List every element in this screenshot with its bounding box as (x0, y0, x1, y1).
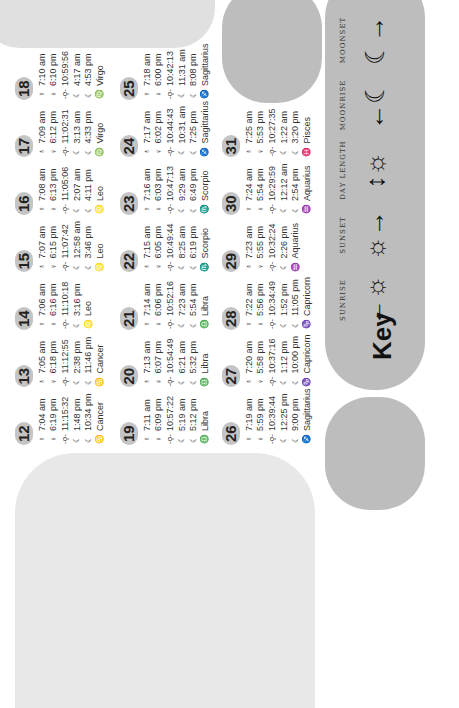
sunrise-row: ♁7:23 am (243, 213, 255, 273)
moon2-value: 7:25 pm (188, 111, 198, 144)
sign-value: Leo (95, 243, 105, 258)
moon2-row: ☾10:00 pm (289, 328, 301, 388)
day-length-icon: -ǫ- (60, 318, 69, 330)
day-number: 29 (222, 250, 240, 273)
legend-label: SUNRISE (339, 265, 347, 335)
moon2-row: ☾9:00 pm (289, 385, 301, 445)
sign-value: Capricorn (302, 334, 312, 373)
moon-icon: ☾ (72, 203, 81, 215)
sunset-row: ♀5:59 pm (255, 385, 267, 445)
moon-icon: ☾ (177, 88, 186, 100)
sunrise-row: ♁7:19 am (243, 385, 255, 445)
moon1-value: 4:17 am (72, 53, 82, 86)
moon2-row: ☾4:53 pm (82, 40, 94, 100)
daylength-value: 10:59:56 (60, 51, 70, 86)
sunset-icon: ♀ (154, 203, 163, 215)
sunrise-row: ♁7:20 am (243, 328, 255, 388)
moon2-value: 11:05 pm (290, 279, 300, 316)
sunset-icon: ♀ (256, 318, 265, 330)
moon1-value: 7:23 am (177, 283, 187, 316)
sunrise-row: ♁7:13 am (141, 328, 153, 388)
daylength-row: -ǫ-10:54:49 (164, 328, 176, 388)
zodiac-icon: ♐ (200, 88, 209, 100)
moon1-row: ☾1:22 am (278, 98, 290, 158)
sign-value: Leo (95, 186, 105, 201)
sunset-value: 6:19 pm (48, 398, 58, 431)
sunrise-value: 7:09 am (37, 111, 47, 144)
sign-row: ♏Scorpio (199, 213, 211, 273)
moon1-value: 10:31 am (177, 106, 187, 144)
sign-value: Aquarius (302, 165, 312, 201)
day-cell: 13♁7:05 am♀6:18 pm-ǫ-11:12:55☾2:38 pm☾11… (15, 328, 106, 388)
zodiac-icon: ♐ (200, 146, 209, 158)
moon1-row: ☾12:58 am (71, 213, 83, 273)
sunrise-value: 7:04 am (37, 398, 47, 431)
day-cell: 14♁7:06 am♀6:16 pm-ǫ-11:10:18☾3:16 pm♌Le… (15, 270, 94, 330)
moon1-value: 8:25 am (177, 226, 187, 259)
daylength-value: 10:44:43 (165, 108, 175, 143)
sunset-value: 5:56 pm (255, 283, 265, 316)
sign-row: ♒Aquarius (301, 155, 313, 215)
sign-value: Pisces (302, 117, 312, 144)
sunset-icon: ♀ (49, 146, 58, 158)
day-length-icon: -ǫ- (267, 261, 276, 273)
zodiac-icon: ♎ (200, 376, 209, 388)
sign-value: Aquarius (290, 223, 300, 259)
sunrise-row: ♁7:25 am (243, 98, 255, 158)
day-number: 25 (120, 77, 138, 100)
moon1-value: 2:07 am (72, 168, 82, 201)
moon1-value: 12:25 pm (279, 393, 289, 431)
sunrise-value: 7:06 am (37, 283, 47, 316)
daylength-row: -ǫ-10:39:44 (266, 385, 278, 445)
sign-value: Libra (200, 296, 210, 316)
day-length-icon: -ǫ- (165, 318, 174, 330)
sunrise-row: ♁7:15 am (141, 213, 153, 273)
zodiac-icon: ♎ (200, 318, 209, 330)
day-number: 16 (15, 192, 33, 215)
day-number: 15 (15, 250, 33, 273)
moon1-value: 2:26 pm (279, 226, 289, 259)
moon2-row: ☾2:54 pm (289, 155, 301, 215)
daylength-value: 10:34:49 (267, 281, 277, 316)
sign-value: Scorpio (200, 228, 210, 259)
sunset-value: 6:15 pm (48, 226, 58, 259)
moon2-value: 5:12 pm (188, 398, 198, 431)
day-cell: 26♁7:19 am♀5:59 pm-ǫ-10:39:44☾12:25 pm☾9… (222, 385, 313, 445)
moon1-row: ☾6:21 am (176, 328, 188, 388)
sunrise-value: 7:07 am (37, 226, 47, 259)
daylength-row: -ǫ-10:59:56 (59, 40, 71, 100)
legend-sunset: SUNSET ☼→ (339, 200, 389, 270)
moon-icon: ☾ (291, 203, 300, 215)
day-number: 21 (120, 307, 138, 330)
moon2-value: 10:00 pm (290, 336, 300, 374)
sunrise-value: 7:17 am (142, 111, 152, 144)
moon2-row: ☾4:33 pm (82, 98, 94, 158)
day-cell: 19♁7:11 am♀6:09 pm-ǫ-10:57:22☾5:19 am☾5:… (120, 385, 211, 445)
moon-icon: ☾ (84, 203, 93, 215)
sunrise-icon: ♁ (37, 318, 46, 330)
sunset-icon: ♀ (256, 433, 265, 445)
moon-icon: ☾ (189, 88, 198, 100)
sunrise-icon: ♁ (244, 203, 253, 215)
zodiac-icon: ♍ (95, 146, 104, 158)
day-number: 31 (222, 135, 240, 158)
daylength-value: 10:49:44 (165, 223, 175, 258)
moon1-row: ☾8:25 am (176, 213, 188, 273)
sunset-value: 6:13 pm (48, 168, 58, 201)
legend-panel: Key SUNRISE ←☼ SUNSET ☼→ DAY LENGTH ↕☼ M… (325, 0, 425, 390)
sign-value: Libra (200, 353, 210, 373)
moon2-value: 5:54 pm (188, 283, 198, 316)
decorative-blob-right (222, 0, 322, 103)
moon-icon: ☾ (189, 203, 198, 215)
moon1-value: 2:38 pm (72, 341, 82, 374)
moon2-value: 11:46 pm (83, 337, 93, 374)
moon2-row: ☾5:12 pm (187, 385, 199, 445)
legend-day-length: DAY LENGTH ↕☼ (339, 135, 389, 205)
zodiac-icon: ♌ (84, 318, 93, 330)
sunrise-icon: ♁ (142, 376, 151, 388)
daylength-row: -ǫ-10:29:59 (266, 155, 278, 215)
sunset-row: ♀6:05 pm (153, 213, 165, 273)
legend-label: SUNSET (339, 200, 347, 270)
moon-icon: ☾ (72, 146, 81, 158)
sunrise-icon: ♁ (37, 203, 46, 215)
